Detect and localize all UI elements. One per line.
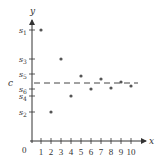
x-axis-label: x bbox=[149, 136, 154, 146]
y-tick-label: s1 bbox=[19, 26, 27, 36]
data-point bbox=[69, 94, 72, 97]
x-tick-label: 6 bbox=[89, 147, 94, 157]
y-tick-label: s3 bbox=[19, 55, 27, 65]
x-tick-label: 10 bbox=[127, 147, 137, 157]
data-point bbox=[49, 110, 52, 113]
data-point bbox=[59, 57, 62, 60]
axes: y x 0 bbox=[22, 6, 154, 155]
data-point bbox=[109, 86, 112, 89]
x-tick-label: 3 bbox=[59, 147, 64, 157]
sequence-points bbox=[39, 28, 132, 113]
y-ticks: s1s3s5s6s4s2 bbox=[19, 26, 35, 118]
limit-label: c bbox=[8, 78, 13, 88]
sequence-convergence-chart: y x 0 12345678910 s1s3s5s6s4s2 c bbox=[0, 0, 160, 164]
data-point bbox=[79, 74, 82, 77]
data-point bbox=[39, 28, 42, 31]
x-tick-label: 2 bbox=[49, 147, 54, 157]
y-tick-label: s2 bbox=[19, 108, 27, 118]
data-point bbox=[119, 80, 122, 83]
x-tick-label: 1 bbox=[39, 147, 44, 157]
origin-label: 0 bbox=[22, 145, 27, 155]
data-point bbox=[129, 84, 132, 87]
y-tick-label: s5 bbox=[19, 70, 27, 80]
x-tick-label: 5 bbox=[79, 147, 84, 157]
x-tick-label: 4 bbox=[69, 147, 74, 157]
data-point bbox=[89, 87, 92, 90]
x-tick-label: 7 bbox=[99, 147, 104, 157]
limit-line: c bbox=[8, 78, 138, 88]
y-axis-label: y bbox=[29, 6, 36, 16]
x-tick-label: 8 bbox=[109, 147, 114, 157]
x-tick-label: 9 bbox=[119, 147, 124, 157]
data-point bbox=[99, 77, 102, 80]
